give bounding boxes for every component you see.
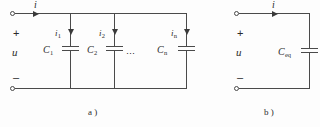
caption-a: a ) [88,108,97,117]
wire-branch1-lower [70,50,71,88]
label-current-i-b: i [272,0,275,10]
wire-bottom-b [239,88,310,89]
label-current-i2: i2 [99,29,105,38]
label-current-i-a: i [34,0,37,10]
label-capacitor-c1: C1 [43,45,53,55]
polarity-plus-a: + [13,28,19,39]
label-current-i1: i1 [55,29,61,38]
polarity-minus-b: – [237,72,243,83]
label-capacitor-ceq: Ceq [278,47,291,57]
current-arrow-i-a [33,11,39,17]
label-voltage-u-b: u [236,47,242,58]
figure-capacitors-in-parallel: i + – u i1 C1 i2 C2 [0,0,320,127]
ellipsis-more-capacitors: ⋯ [126,50,136,59]
label-current-in: in [171,29,177,38]
label-capacitor-cn: Cn [157,45,167,55]
wire-right-upper-b [309,13,310,48]
wire-bottom-a [15,88,187,89]
label-voltage-u-a: u [12,47,18,58]
wire-top-a [15,13,187,14]
wire-right-lower-b [309,52,310,89]
current-arrow-in [184,29,190,35]
current-arrow-i1 [68,29,74,35]
label-capacitor-c2: C2 [87,45,97,55]
polarity-minus-a: – [13,72,19,83]
current-arrow-i2 [112,29,118,35]
caption-b: b ) [264,108,274,117]
current-arrow-i-b [272,11,278,17]
wire-branchn-lower [186,50,187,89]
polarity-plus-b: + [237,28,243,39]
wire-branch2-lower [114,50,115,88]
